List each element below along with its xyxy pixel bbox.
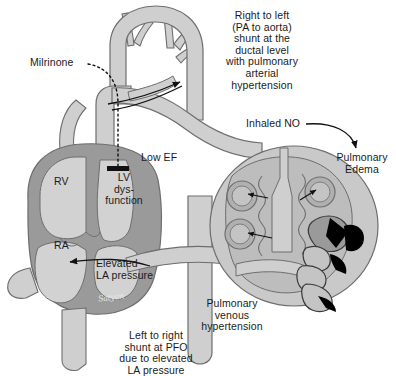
label-inhaled-no: Inhaled NO: [246, 118, 300, 130]
alveolus: [227, 181, 257, 211]
label-pulmonary-venous-hypertension: Pulmonary venous hypertension: [189, 298, 275, 333]
inhaled-no-arrow: [306, 124, 356, 148]
label-lv-dysfunction: LV dys- function: [105, 172, 143, 207]
label-elevated-la-pressure: Elevated LA pressure: [96, 258, 168, 281]
label-low-ef: Low EF: [141, 152, 177, 164]
label-ductal-shunt: Right to left (PA to aorta) shunt at the…: [198, 10, 326, 91]
label-pfo-shunt: Left to right shunt at PFO due to elevat…: [110, 330, 202, 376]
label-pulmonary-edema: Pulmonary Edema: [330, 152, 394, 175]
label-rv: RV: [54, 176, 69, 188]
label-ra: RA: [54, 240, 69, 252]
medical-diagram-figure: Right to left (PA to aorta) shunt at the…: [0, 0, 396, 376]
label-milrinone: Milrinone: [30, 57, 74, 69]
alveolus: [305, 177, 335, 207]
